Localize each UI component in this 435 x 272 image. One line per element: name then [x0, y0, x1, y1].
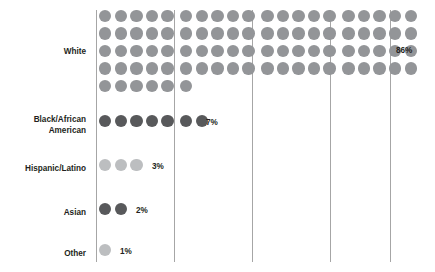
data-dot [227, 27, 239, 39]
data-dot [358, 45, 370, 57]
data-dot [211, 10, 223, 22]
data-dot [146, 27, 158, 39]
data-dot [342, 27, 354, 39]
data-dot [261, 27, 273, 39]
data-dot [308, 45, 320, 57]
dot-field-hispanic-latino [99, 159, 146, 176]
data-dot [99, 115, 111, 127]
data-dot [99, 27, 111, 39]
value-label-other: 1% [120, 247, 132, 256]
data-dot [242, 62, 254, 74]
data-dot [211, 62, 223, 74]
data-dot [115, 203, 127, 215]
data-dot [261, 45, 273, 57]
data-dot [196, 62, 208, 74]
data-dot [242, 10, 254, 22]
dot-row [99, 80, 420, 97]
data-dot [115, 115, 127, 127]
data-dot [99, 45, 111, 57]
dot-field-black-african-american [99, 115, 211, 132]
data-dot [99, 244, 111, 256]
data-dot [242, 27, 254, 39]
data-dot [389, 10, 401, 22]
data-dot [308, 10, 320, 22]
value-label-white: 86% [396, 46, 412, 55]
data-dot [292, 10, 304, 22]
dot-row [99, 10, 420, 27]
dot-row [99, 159, 146, 176]
data-dot [292, 62, 304, 74]
dot-row [99, 45, 420, 62]
data-dot [99, 80, 111, 92]
dot-field-other [99, 244, 115, 261]
data-dot [358, 62, 370, 74]
data-dot [227, 45, 239, 57]
data-dot [115, 62, 127, 74]
dot-field-asian [99, 203, 130, 220]
waffle-dot-chart: White86%Black/African American7%Hispanic… [0, 0, 435, 272]
data-dot [146, 10, 158, 22]
data-dot [261, 62, 273, 74]
data-dot [277, 62, 289, 74]
data-dot [180, 45, 192, 57]
data-dot [342, 45, 354, 57]
data-dot [180, 115, 192, 127]
data-dot [146, 62, 158, 74]
data-dot [180, 10, 192, 22]
data-dot [196, 27, 208, 39]
data-dot [323, 10, 335, 22]
data-dot [180, 80, 192, 92]
data-dot [130, 27, 142, 39]
data-dot [180, 27, 192, 39]
data-dot [161, 62, 173, 74]
data-dot [115, 10, 127, 22]
data-dot [146, 45, 158, 57]
data-dot [242, 45, 254, 57]
data-dot [180, 62, 192, 74]
data-dot [161, 10, 173, 22]
data-dot [130, 62, 142, 74]
dot-field-white [99, 10, 420, 97]
category-label-white: White [0, 47, 86, 58]
data-dot [211, 27, 223, 39]
data-dot [146, 115, 158, 127]
category-label-black-african-american: Black/African American [0, 115, 86, 136]
dot-row [99, 244, 115, 261]
data-dot [161, 45, 173, 57]
data-dot [227, 62, 239, 74]
dot-row [99, 203, 130, 220]
category-label-hispanic-latino: Hispanic/Latino [0, 164, 86, 175]
category-label-asian: Asian [0, 208, 86, 219]
data-dot [130, 10, 142, 22]
data-dot [358, 27, 370, 39]
data-dot [115, 27, 127, 39]
data-dot [277, 45, 289, 57]
data-dot [292, 45, 304, 57]
data-dot [342, 10, 354, 22]
data-dot [227, 10, 239, 22]
data-dot [292, 27, 304, 39]
data-dot [99, 159, 111, 171]
data-dot [389, 62, 401, 74]
dot-row [99, 27, 420, 44]
data-dot [146, 80, 158, 92]
value-label-hispanic-latino: 3% [152, 162, 164, 171]
data-dot [323, 45, 335, 57]
data-dot [277, 27, 289, 39]
data-dot [308, 27, 320, 39]
data-dot [373, 62, 385, 74]
data-dot [115, 80, 127, 92]
data-dot [277, 10, 289, 22]
gridline-axis-left [96, 10, 97, 262]
value-label-asian: 2% [136, 206, 148, 215]
data-dot [308, 62, 320, 74]
data-dot [405, 62, 417, 74]
data-dot [196, 10, 208, 22]
data-dot [115, 45, 127, 57]
data-dot [130, 159, 142, 171]
dot-row [99, 62, 420, 79]
data-dot [358, 10, 370, 22]
data-dot [130, 115, 142, 127]
value-label-black-african-american: 7% [206, 118, 218, 127]
data-dot [196, 45, 208, 57]
